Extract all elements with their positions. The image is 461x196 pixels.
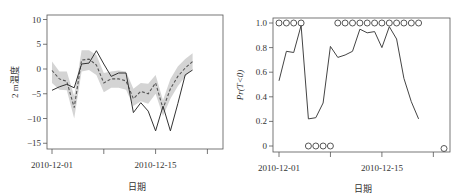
y-tick-label: −5 bbox=[31, 89, 41, 99]
y-tick-label: 0.4 bbox=[256, 92, 268, 102]
y-tick-label: −15 bbox=[27, 138, 42, 148]
observed-event-marker bbox=[364, 20, 370, 26]
observed-event-marker bbox=[342, 20, 348, 26]
observed-event-marker bbox=[441, 146, 447, 152]
observed-event-marker bbox=[372, 20, 378, 26]
observed-event-marker bbox=[291, 20, 297, 26]
observed-event-marker bbox=[357, 20, 363, 26]
right-plot-area bbox=[276, 20, 447, 152]
right-y-axis-title: Pr(T<0) bbox=[235, 70, 245, 102]
forecast-spread-band bbox=[52, 50, 193, 118]
y-tick-label: −10 bbox=[27, 114, 42, 124]
y-tick-label: 0 bbox=[37, 64, 42, 74]
observed-event-marker bbox=[283, 20, 289, 26]
observed-event-marker bbox=[313, 143, 319, 149]
y-tick-label: 0.6 bbox=[256, 67, 268, 77]
left-y-axis-title: 2 m温度 bbox=[9, 66, 20, 98]
observed-event-marker bbox=[327, 143, 333, 149]
left-x-axis-title: 日期 bbox=[128, 182, 146, 192]
left-plot-area bbox=[52, 50, 193, 131]
left-chart: −15−10−50510 2010-12-012010-12-15 2 m温度 … bbox=[9, 15, 223, 193]
figure: −15−10−50510 2010-12-012010-12-15 2 m温度 … bbox=[0, 0, 461, 196]
observed-event-marker bbox=[408, 20, 414, 26]
right-x-axis: 2010-12-012010-12-15 bbox=[258, 152, 433, 173]
y-tick-label: 0.8 bbox=[256, 43, 268, 53]
right-y-axis: 00.20.40.60.81.0 bbox=[256, 18, 273, 151]
probability-line bbox=[279, 26, 419, 119]
right-y-axis-title-cond: (T<0) bbox=[235, 70, 245, 92]
observed-event-marker bbox=[276, 20, 282, 26]
observed-event-marker bbox=[379, 20, 385, 26]
observed-event-marker bbox=[394, 20, 400, 26]
y-tick-label: 0.2 bbox=[256, 116, 267, 126]
right-x-axis-title: 日期 bbox=[354, 184, 372, 194]
observed-event-marker bbox=[305, 143, 311, 149]
left-y-axis: −15−10−50510 bbox=[27, 15, 47, 149]
left-x-axis: 2010-12-012010-12-15 bbox=[31, 149, 207, 170]
y-tick-label: 1.0 bbox=[256, 18, 268, 28]
observed-event-marker bbox=[401, 20, 407, 26]
observed-event-marker bbox=[350, 20, 356, 26]
right-plot-frame bbox=[273, 18, 450, 152]
y-tick-label: 0 bbox=[263, 141, 268, 151]
x-tick-label: 2010-12-15 bbox=[135, 160, 177, 170]
x-tick-label: 2010-12-01 bbox=[31, 160, 73, 170]
observed-event-marker bbox=[298, 20, 304, 26]
observed-event-marker bbox=[320, 143, 326, 149]
y-tick-label: 10 bbox=[32, 15, 42, 25]
y-tick-label: 5 bbox=[37, 39, 42, 49]
observed-event-marker bbox=[335, 20, 341, 26]
x-tick-label: 2010-12-01 bbox=[258, 163, 300, 173]
observed-event-marker bbox=[386, 20, 392, 26]
right-y-axis-title-pr: Pr bbox=[235, 91, 245, 101]
left-plot-frame bbox=[47, 15, 223, 149]
observed-event-marker bbox=[416, 20, 422, 26]
x-tick-label: 2010-12-15 bbox=[361, 163, 403, 173]
right-chart: 00.20.40.60.81.0 2010-12-012010-12-15 Pr… bbox=[235, 18, 450, 194]
